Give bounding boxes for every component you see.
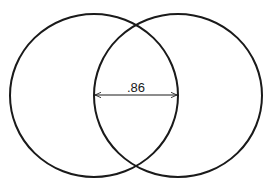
dimension-label: .86 — [127, 80, 145, 95]
venn-diagram: .86 — [0, 0, 270, 190]
